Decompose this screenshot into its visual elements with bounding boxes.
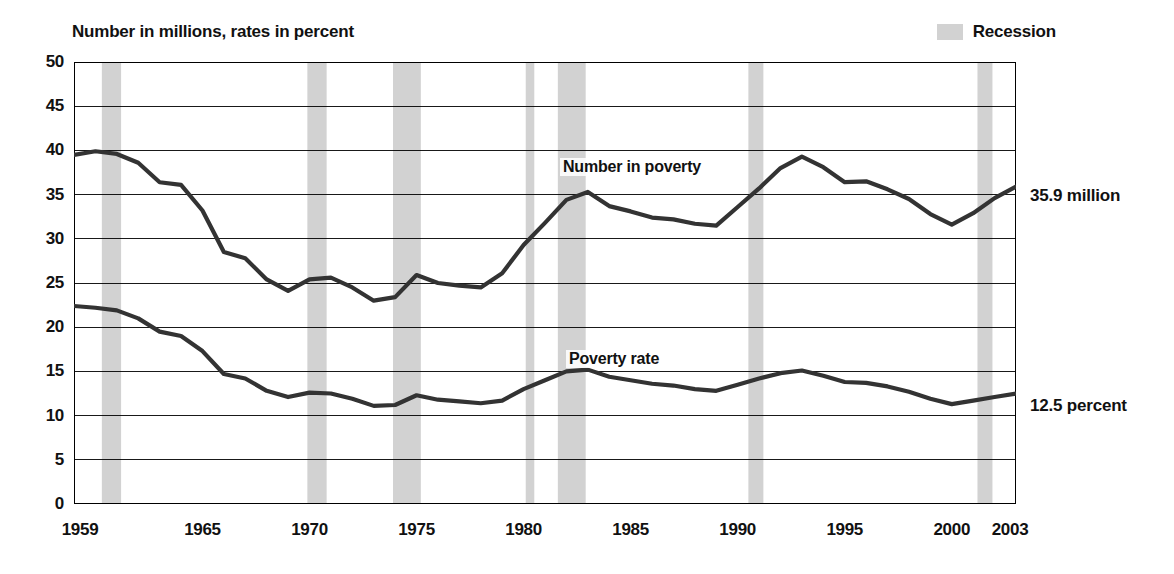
- x-tick-label-1995: 1995: [826, 520, 863, 540]
- poverty-chart-page: Number in millions, rates in percent Rec…: [0, 0, 1174, 574]
- y-tick-label-40: 40: [20, 141, 64, 158]
- legend: Recession: [937, 22, 1056, 42]
- y-tick-label-15: 15: [20, 362, 64, 379]
- y-tick-label-20: 20: [20, 318, 64, 335]
- end-annotation-rate: 12.5 percent: [1030, 396, 1127, 416]
- series-line-number-in-poverty: [74, 151, 1016, 300]
- y-tick-label-50: 50: [20, 53, 64, 70]
- x-tick-label-2003: 2003: [992, 520, 1029, 540]
- x-tick-label-1970: 1970: [291, 520, 328, 540]
- x-tick-label-1985: 1985: [612, 520, 649, 540]
- chart-canvas: [74, 62, 1016, 504]
- plot-area: [74, 62, 1016, 504]
- y-tick-label-45: 45: [20, 97, 64, 114]
- series-label-poverty-rate: Poverty rate: [566, 350, 662, 368]
- x-tick-label-1975: 1975: [398, 520, 435, 540]
- y-tick-label-30: 30: [20, 230, 64, 247]
- y-tick-label-35: 35: [20, 186, 64, 203]
- y-tick-label-0: 0: [20, 495, 64, 512]
- legend-label-recession: Recession: [973, 22, 1056, 42]
- series-label-number-in-poverty: Number in poverty: [560, 158, 704, 176]
- chart-title: Number in millions, rates in percent: [72, 22, 354, 42]
- x-tick-label-1959: 1959: [62, 520, 99, 540]
- recession-swatch-icon: [937, 24, 963, 40]
- x-tick-label-1990: 1990: [719, 520, 756, 540]
- x-tick-label-2000: 2000: [933, 520, 970, 540]
- y-tick-label-10: 10: [20, 407, 64, 424]
- y-tick-label-25: 25: [20, 274, 64, 291]
- x-tick-label-1980: 1980: [505, 520, 542, 540]
- y-tick-label-5: 5: [20, 451, 64, 468]
- x-tick-label-1965: 1965: [184, 520, 221, 540]
- series-line-poverty-rate: [74, 306, 1016, 406]
- end-annotation-number: 35.9 million: [1030, 186, 1120, 206]
